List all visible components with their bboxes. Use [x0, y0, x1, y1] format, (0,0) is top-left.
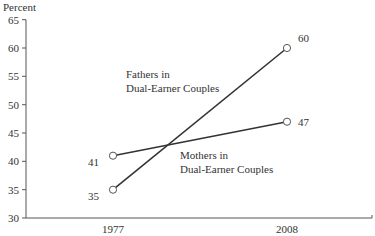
- x-tick-label-2008: 2008: [276, 223, 299, 235]
- mothers-series-annotation: Mothers in Dual-Earner Couples: [180, 149, 273, 175]
- y-tick-label: 40: [8, 155, 20, 167]
- data-label-fathers-1977: 35: [88, 190, 100, 202]
- x-tick-label-1977: 1977: [102, 223, 125, 235]
- line-chart: Percent 30 35 40 45 50 55 60 65 1977 200…: [0, 0, 375, 236]
- mothers-2008-marker: [283, 118, 290, 125]
- y-ticks: [22, 20, 26, 218]
- y-axis-label: Percent: [3, 1, 36, 13]
- y-tick-labels: 30 35 40 45 50 55 60 65: [8, 14, 20, 224]
- y-tick-label: 30: [8, 212, 20, 224]
- y-tick-label: 45: [8, 127, 20, 139]
- y-tick-label: 60: [8, 42, 20, 54]
- y-tick-label: 55: [8, 70, 20, 82]
- mothers-1977-marker: [109, 152, 116, 159]
- data-label-mothers-2008: 47: [298, 116, 310, 128]
- fathers-series-annotation: Fathers in Dual-Earner Couples: [126, 68, 219, 94]
- mothers-annotation-line-1: Mothers in: [180, 149, 228, 161]
- fathers-2008-marker: [283, 44, 290, 51]
- fathers-1977-marker: [109, 186, 116, 193]
- fathers-annotation-line-2: Dual-Earner Couples: [126, 82, 219, 94]
- mothers-annotation-line-2: Dual-Earner Couples: [180, 163, 273, 175]
- fathers-annotation-line-1: Fathers in: [126, 68, 170, 80]
- y-tick-label: 35: [8, 184, 20, 196]
- y-tick-label: 50: [8, 99, 20, 111]
- data-label-mothers-1977: 41: [88, 156, 99, 168]
- y-tick-label: 65: [8, 14, 20, 26]
- data-label-fathers-2008: 60: [298, 32, 310, 44]
